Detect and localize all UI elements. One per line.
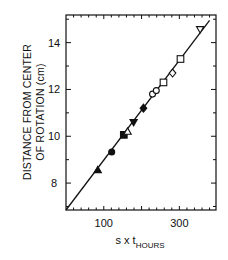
y-tick-label: 12 <box>48 83 60 95</box>
regression-line <box>66 20 210 210</box>
fit-line <box>66 20 210 210</box>
square-open-marker <box>177 56 184 63</box>
x-axis-label-main: s x t <box>115 234 135 246</box>
diamond-open-marker <box>169 69 176 77</box>
y-tick-label: 8 <box>51 177 57 189</box>
x-axis-label: s x tHOURS <box>115 234 164 246</box>
triangle-filled-marker <box>94 166 101 172</box>
y-axis-label-line1: DISTANCE FROM CENTER <box>21 44 33 180</box>
circle-filled-marker <box>109 149 115 155</box>
circle-open-marker <box>153 88 159 94</box>
x-tick-label: 300 <box>170 217 188 229</box>
x-tick-label: 100 <box>95 217 113 229</box>
y-axis-label-line2: OF ROTATION (cm) <box>34 63 46 160</box>
y-tick-label: 10 <box>48 130 60 142</box>
square-open-marker <box>160 79 167 86</box>
y-tick-label: 14 <box>48 37 60 49</box>
x-axis-label-subscript: HOURS <box>136 241 165 250</box>
